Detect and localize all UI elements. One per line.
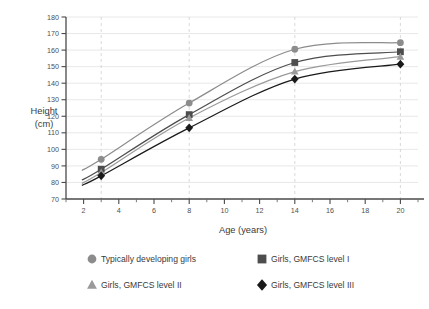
y-tick-label: 180 bbox=[47, 13, 59, 22]
legend-label: Girls, GMFCS level III bbox=[271, 280, 354, 290]
series-lines-group bbox=[82, 43, 401, 186]
legend-label: Typically developing girls bbox=[101, 254, 196, 264]
x-tick-label: 10 bbox=[220, 206, 228, 215]
x-tick-labels: 2468101214161820 bbox=[82, 206, 405, 215]
legend-label: Girls, GMFCS level I bbox=[271, 254, 349, 264]
y-tick-label: 80 bbox=[51, 178, 59, 187]
y-axis-title-line2: (cm) bbox=[35, 119, 54, 129]
series-line bbox=[82, 64, 401, 185]
x-tick-label: 16 bbox=[326, 206, 334, 215]
legend-item[interactable]: Girls, GMFCS level I bbox=[258, 254, 350, 264]
diamond-marker bbox=[185, 123, 193, 132]
y-tick-label: 70 bbox=[51, 195, 59, 204]
y-tick-label: 140 bbox=[47, 79, 59, 88]
circle-marker bbox=[397, 39, 404, 46]
circle-marker bbox=[186, 100, 193, 107]
x-tick-label: 20 bbox=[396, 206, 404, 215]
diamond-marker bbox=[396, 60, 404, 69]
x-tick-label: 2 bbox=[82, 206, 86, 215]
x-axis-title: Age (years) bbox=[219, 225, 267, 235]
chart-canvas: 708090100110120130140150160170180 246810… bbox=[0, 0, 429, 309]
y-tick-marks bbox=[62, 17, 67, 199]
triangle-marker bbox=[87, 280, 97, 289]
legend: Typically developing girlsGirls, GMFCS l… bbox=[87, 254, 354, 291]
y-tick-label: 130 bbox=[47, 95, 59, 104]
y-tick-label: 160 bbox=[47, 46, 59, 55]
x-tick-label: 12 bbox=[256, 206, 264, 215]
legend-item[interactable]: Girls, GMFCS level III bbox=[257, 279, 354, 290]
y-tick-label: 170 bbox=[47, 29, 59, 38]
diamond-marker bbox=[257, 279, 267, 290]
legend-label: Girls, GMFCS level II bbox=[101, 280, 182, 290]
legend-item[interactable]: Typically developing girls bbox=[88, 254, 196, 264]
grid-vertical-group bbox=[101, 17, 400, 199]
y-tick-label: 110 bbox=[48, 128, 59, 137]
x-tick-label: 4 bbox=[117, 206, 121, 215]
square-marker bbox=[258, 255, 267, 264]
axes-group bbox=[66, 17, 424, 199]
square-marker bbox=[291, 59, 298, 66]
circle-marker bbox=[88, 255, 97, 264]
y-tick-label: 150 bbox=[47, 62, 59, 71]
growth-chart-figure: 708090100110120130140150160170180 246810… bbox=[0, 0, 429, 309]
x-tick-label: 8 bbox=[187, 206, 191, 215]
y-tick-label: 100 bbox=[47, 145, 59, 154]
y-axis-title-line1: Height bbox=[31, 106, 58, 116]
y-tick-label: 90 bbox=[51, 162, 59, 171]
x-tick-label: 14 bbox=[291, 206, 299, 215]
circle-marker bbox=[98, 156, 105, 163]
series-line bbox=[82, 57, 401, 184]
legend-item[interactable]: Girls, GMFCS level II bbox=[87, 280, 182, 290]
x-tick-marks bbox=[66, 199, 418, 204]
diamond-marker bbox=[291, 75, 299, 84]
x-tick-label: 18 bbox=[361, 206, 369, 215]
circle-marker bbox=[291, 46, 298, 53]
x-tick-label: 6 bbox=[152, 206, 156, 215]
diamond-marker bbox=[97, 171, 105, 180]
